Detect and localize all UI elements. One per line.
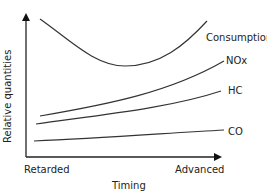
x-axis-label: Timing: [112, 181, 146, 191]
hc-curve: [36, 91, 221, 124]
consumption-label: Consumption: [206, 33, 267, 43]
co-curve: [34, 130, 224, 141]
hc-label: HC: [228, 86, 243, 96]
nox-curve: [40, 61, 224, 116]
co-label: CO: [228, 127, 243, 137]
consumption-curve: [40, 19, 207, 66]
y-axis-label: Relative quantities: [3, 50, 13, 143]
nox-label: NOx: [226, 56, 247, 66]
x-left-label: Retarded: [24, 165, 69, 175]
x-right-label: Advanced: [175, 165, 224, 175]
